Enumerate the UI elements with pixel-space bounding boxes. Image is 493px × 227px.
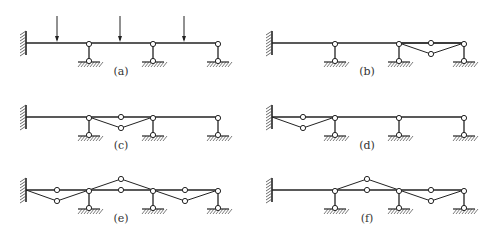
hinge-icon (118, 176, 123, 181)
load-arrow-icon (118, 16, 122, 42)
panel-a: (a) (20, 16, 232, 78)
pin-support (388, 115, 413, 141)
panel-label-e: (e) (113, 212, 128, 225)
panel-f: (f) (266, 176, 478, 225)
panel-c: (c) (20, 105, 232, 152)
hinge-icon (428, 40, 433, 45)
load-arrow-icon (55, 16, 59, 42)
hinge-icon (364, 187, 369, 192)
hinge-icon (182, 187, 187, 192)
pin-support (78, 41, 103, 67)
hinge-icon (428, 198, 433, 203)
influence-line-figure: (a)(b)(c)(d)(e)(f) (0, 0, 493, 227)
panel-label-c: (c) (114, 139, 129, 152)
panel-e: (e) (20, 176, 232, 225)
hinge-icon (118, 125, 123, 130)
pin-support (207, 41, 232, 67)
panel-label-f: (f) (361, 212, 374, 225)
panel-b: (b) (266, 31, 478, 78)
fixed-support-wall (20, 105, 26, 130)
hinge-icon (118, 187, 123, 192)
hinge-icon (428, 187, 433, 192)
pin-support (388, 188, 413, 214)
pin-support (207, 115, 232, 141)
pin-support (388, 41, 413, 67)
hinge-icon (428, 51, 433, 56)
hinge-icon (118, 114, 123, 119)
pin-support (142, 41, 167, 67)
panel-d: (d) (266, 105, 478, 152)
hinge-icon (364, 176, 369, 181)
hinge-icon (300, 125, 305, 130)
hinge-icon (182, 198, 187, 203)
panel-label-d: (d) (359, 139, 375, 152)
fixed-support-wall (266, 31, 272, 56)
hinge-icon (54, 198, 59, 203)
pin-support (324, 41, 349, 67)
fixed-support-wall (266, 105, 272, 130)
pin-support (142, 188, 167, 214)
panel-label-b: (b) (359, 65, 375, 78)
pin-support (324, 188, 349, 214)
fixed-support-wall (20, 31, 26, 56)
pin-support (78, 115, 103, 141)
panel-label-a: (a) (113, 65, 128, 78)
load-arrow-icon (182, 16, 186, 42)
hinge-icon (54, 187, 59, 192)
pin-support (453, 115, 478, 141)
hinge-icon (300, 114, 305, 119)
fixed-support-wall (266, 178, 272, 203)
fixed-support-wall (20, 178, 26, 203)
